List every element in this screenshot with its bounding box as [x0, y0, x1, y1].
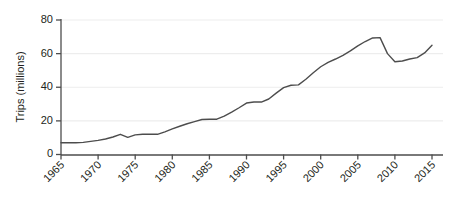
- y-tick-label: 40: [41, 80, 53, 92]
- x-tick-label: 1985: [189, 158, 215, 184]
- y-axis-title: Trips (millions): [14, 51, 26, 122]
- x-tick-label: 2000: [300, 158, 326, 184]
- y-tick-label: 80: [41, 13, 53, 25]
- x-tick-label: 2010: [375, 158, 401, 184]
- x-tick-label: 1970: [78, 158, 104, 184]
- x-axis-ticks: 1965197019751980198519901995200020052010…: [41, 155, 438, 185]
- chart-figure: 020406080 196519701975198019851990199520…: [0, 0, 456, 199]
- y-axis-ticks: 020406080: [41, 13, 61, 160]
- y-tick-label: 0: [47, 147, 53, 159]
- x-tick-label: 2015: [412, 158, 438, 184]
- x-tick-label: 1990: [226, 158, 252, 184]
- x-tick-label: 1980: [152, 158, 178, 184]
- x-tick-label: 2005: [337, 158, 363, 184]
- line-chart: 020406080 196519701975198019851990199520…: [0, 0, 456, 199]
- x-tick-label: 1965: [41, 158, 67, 184]
- y-tick-label: 20: [41, 114, 53, 126]
- x-tick-label: 1975: [115, 158, 141, 184]
- x-tick-label: 1995: [263, 158, 289, 184]
- y-tick-label: 60: [41, 47, 53, 59]
